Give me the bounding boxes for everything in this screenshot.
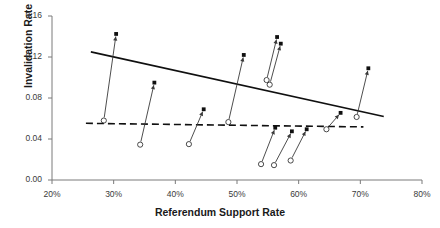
lower-trend-dashed bbox=[86, 123, 364, 127]
axes-group bbox=[48, 16, 422, 184]
marker-open-circle bbox=[267, 82, 272, 87]
data-arrows-group bbox=[101, 32, 370, 168]
trend-lines-group bbox=[86, 52, 384, 127]
y-tick-label: 0.00 bbox=[8, 174, 42, 184]
x-tick-label: 70% bbox=[343, 189, 377, 199]
marker-filled-square bbox=[290, 129, 294, 133]
marker-open-circle bbox=[138, 142, 143, 147]
marker-open-circle bbox=[258, 162, 263, 167]
data-arrow bbox=[271, 129, 293, 167]
marker-filled-square bbox=[339, 111, 343, 115]
arrow-head bbox=[273, 40, 277, 44]
data-arrow bbox=[226, 53, 246, 125]
marker-filled-square bbox=[202, 107, 206, 111]
data-arrow bbox=[186, 107, 205, 146]
marker-filled-square bbox=[305, 127, 309, 131]
arrow-shaft bbox=[357, 71, 367, 114]
arrow-shaft bbox=[229, 57, 243, 118]
x-tick-label: 80% bbox=[405, 189, 439, 199]
arrow-head bbox=[113, 37, 117, 41]
arrow-head bbox=[277, 46, 281, 50]
arrow-shaft bbox=[275, 134, 290, 163]
marker-filled-square bbox=[242, 53, 246, 57]
marker-filled-square bbox=[275, 35, 279, 39]
arrow-head bbox=[151, 85, 155, 89]
marker-filled-square bbox=[114, 32, 118, 36]
marker-filled-square bbox=[152, 81, 156, 85]
x-tick-label: 30% bbox=[97, 189, 131, 199]
arrow-shaft bbox=[267, 40, 276, 77]
x-tick-label: 60% bbox=[282, 189, 316, 199]
arrow-shaft bbox=[190, 112, 203, 142]
marker-filled-square bbox=[273, 126, 277, 130]
arrow-shaft bbox=[271, 46, 281, 81]
chart-root: Invalidation Rate Referendum Support Rat… bbox=[0, 0, 440, 228]
x-tick-label: 20% bbox=[35, 189, 69, 199]
marker-open-circle bbox=[264, 77, 269, 82]
data-arrow bbox=[258, 126, 277, 167]
marker-open-circle bbox=[226, 119, 231, 124]
y-tick-label: 0.12 bbox=[8, 51, 42, 61]
marker-open-circle bbox=[354, 114, 359, 119]
y-tick-label: 0.04 bbox=[8, 133, 42, 143]
arrow-head bbox=[240, 57, 244, 61]
marker-open-circle bbox=[288, 158, 293, 163]
marker-filled-square bbox=[279, 42, 283, 46]
y-tick-label: 0.08 bbox=[8, 92, 42, 102]
arrow-shaft bbox=[104, 37, 116, 118]
marker-open-circle bbox=[324, 127, 329, 132]
arrow-head bbox=[365, 71, 369, 75]
data-arrow bbox=[101, 32, 118, 123]
marker-open-circle bbox=[271, 163, 276, 168]
data-arrow bbox=[324, 111, 343, 132]
arrow-shaft bbox=[292, 132, 305, 158]
x-tick-label: 40% bbox=[158, 189, 192, 199]
marker-filled-square bbox=[366, 66, 370, 70]
marker-open-circle bbox=[101, 118, 106, 123]
y-tick-label: 0.16 bbox=[8, 10, 42, 20]
arrow-shaft bbox=[262, 130, 274, 161]
data-arrow bbox=[138, 81, 157, 148]
marker-open-circle bbox=[186, 142, 191, 147]
arrow-shaft bbox=[141, 85, 154, 141]
x-tick-label: 50% bbox=[220, 189, 254, 199]
